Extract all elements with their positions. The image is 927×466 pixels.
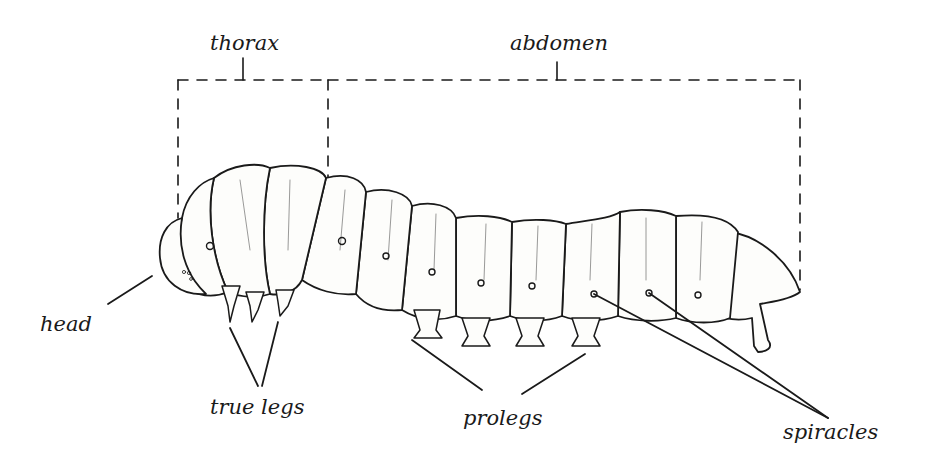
head-leader [108,276,152,304]
caterpillar-diagram: thorax abdomen head true legs prolegs sp… [0,0,927,466]
label-head: head [40,314,92,335]
caterpillar-illustration [0,0,927,466]
label-abdomen: abdomen [510,33,608,54]
true-legs [222,286,294,322]
label-true-legs: true legs [210,397,304,418]
label-thorax: thorax [210,33,279,54]
label-spiracles: spiracles [783,422,878,443]
label-prolegs: prolegs [463,408,543,429]
